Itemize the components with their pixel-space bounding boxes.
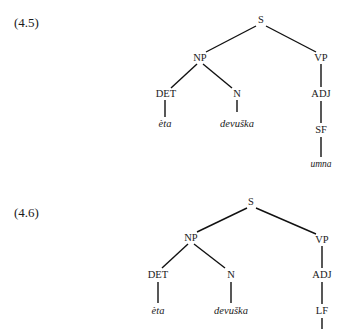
node-s: S [258,14,264,26]
leaf-noun: devuška [220,118,254,130]
tree-branches [0,0,337,329]
node-s: S [248,196,254,208]
leaf-det: èta [159,118,172,130]
node-vp: VP [314,52,327,64]
node-vp: VP [315,234,328,246]
node-lf: LF [316,305,328,317]
node-np: NP [184,232,197,244]
leaf-adj: umna [310,158,331,170]
node-n: N [233,88,241,100]
leaf-noun: devuška [214,305,248,317]
node-np: NP [193,52,206,64]
example-number: (4.5) [14,16,39,30]
node-n: N [227,269,235,281]
leaf-det: èta [152,305,165,317]
node-sf: SF [315,124,327,136]
node-det: DET [148,269,168,281]
node-det: DET [156,88,176,100]
node-adj: ADJ [311,88,330,100]
node-adj: ADJ [312,269,331,281]
example-number: (4.6) [14,206,39,220]
